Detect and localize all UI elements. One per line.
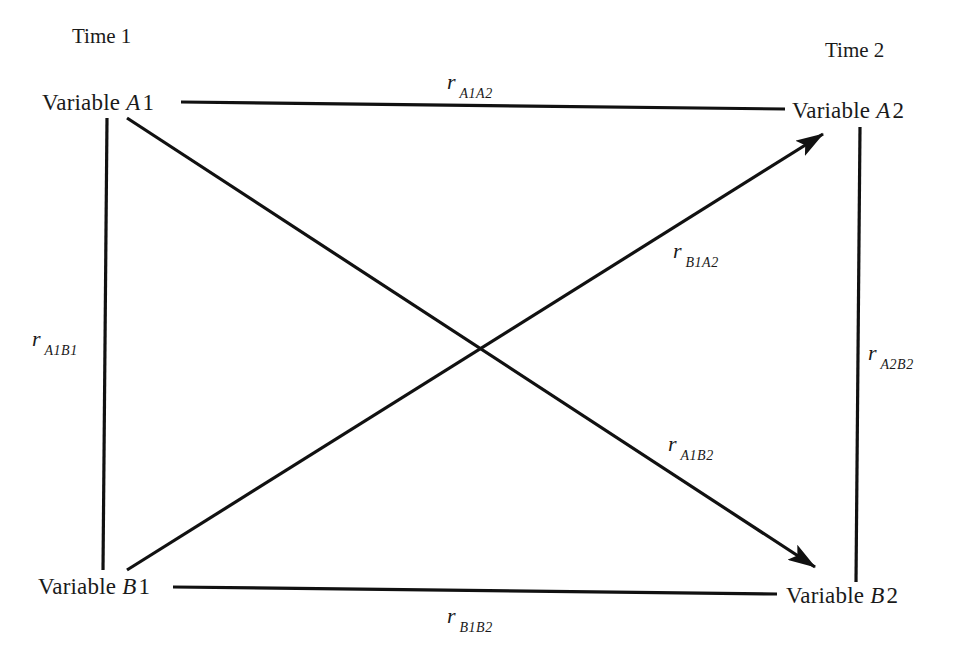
node-prefix: Variable: [792, 98, 876, 123]
coef-symbol: r: [447, 69, 456, 94]
coef-subscript: A1B2: [681, 448, 714, 463]
coef-symbol: r: [32, 326, 41, 351]
coef-r-a2b2: rA2B2: [868, 342, 914, 364]
node-index: 1: [138, 574, 150, 599]
time-1-label: Time 1: [72, 26, 131, 47]
edge-b1-b2: [173, 587, 777, 594]
coef-r-a1b1: rA1B1: [32, 328, 78, 350]
node-variable-a1: Variable A1: [42, 91, 154, 114]
coef-r-a1b2: rA1B2: [668, 433, 714, 455]
node-prefix: Variable: [786, 583, 870, 608]
node-prefix: Variable: [42, 90, 126, 115]
edge-a2-b2: [856, 127, 860, 582]
node-variable-b1: Variable B1: [38, 575, 150, 598]
node-index: 2: [886, 583, 898, 608]
coef-subscript: B1A2: [686, 255, 719, 270]
coef-symbol: r: [447, 603, 456, 628]
node-variable-a2: Variable A2: [792, 99, 904, 122]
coef-subscript: B1B2: [460, 620, 493, 635]
node-index: 1: [142, 90, 154, 115]
coef-r-b1a2: rB1A2: [673, 240, 719, 262]
node-letter: B: [122, 574, 136, 599]
node-index: 2: [892, 98, 904, 123]
coef-subscript: A1A2: [460, 86, 493, 101]
coef-subscript: A1B1: [45, 343, 78, 358]
edge-a1-b2-arrow: [127, 118, 815, 567]
edge-a1-a2: [181, 102, 785, 109]
node-prefix: Variable: [38, 574, 122, 599]
coef-r-b1b2: rB1B2: [447, 605, 493, 627]
coef-symbol: r: [673, 238, 682, 263]
edge-a1-b1: [103, 118, 107, 570]
node-variable-b2: Variable B2: [786, 584, 898, 607]
coef-symbol: r: [668, 431, 677, 456]
time-2-label: Time 2: [825, 40, 884, 61]
node-letter: A: [876, 98, 890, 123]
node-letter: A: [126, 90, 140, 115]
coef-symbol: r: [868, 340, 877, 365]
coef-subscript: A2B2: [881, 357, 914, 372]
coef-r-a1a2: rA1A2: [447, 71, 493, 93]
node-letter: B: [870, 583, 884, 608]
